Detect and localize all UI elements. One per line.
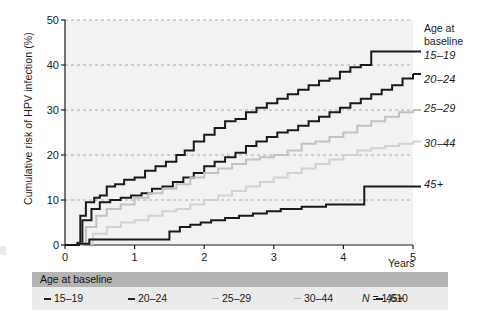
y-tick-label: 40 [33, 60, 59, 71]
y-tick-label: 10 [33, 195, 59, 206]
right-legend-header: Age at baseline [424, 22, 463, 47]
legend-item-25-29: 25–29 [212, 292, 251, 304]
x-tick-label: 4 [328, 252, 358, 263]
figure-container: 0 10 20 30 40 50 0 1 2 3 4 5 Cumulative … [0, 0, 482, 324]
y-tick-label: 50 [33, 15, 59, 26]
series-line-30–44 [65, 142, 413, 246]
series-paths [65, 52, 421, 246]
axis-ticks [61, 20, 413, 249]
x-tick-label: 0 [50, 252, 80, 263]
gridlines [65, 20, 413, 200]
legend-item-label: 15–19 [54, 292, 83, 304]
x-axis-title: Years [388, 257, 414, 269]
series-line-20–24 [65, 74, 413, 245]
bottom-legend-row: 15–19 20–24 25–29 30–44 45+ N = 1,610 [32, 287, 448, 310]
axis-lines [65, 20, 413, 245]
right-legend-header-line1: Age at [424, 22, 463, 35]
x-tick-label: 1 [120, 252, 150, 263]
legend-sample-size: N = 1,610 [362, 292, 408, 304]
bottom-legend: Age at baseline 15–19 20–24 25–29 30–44 … [32, 272, 448, 310]
x-tick-label: 2 [189, 252, 219, 263]
right-legend-header-line2: baseline [424, 35, 463, 48]
legend-item-label: 25–29 [222, 292, 251, 304]
legend-dash-icon [212, 298, 219, 299]
legend-n-value: = 1,610 [373, 292, 408, 304]
series-line-25–29 [65, 110, 413, 245]
y-axis-title: Cumulative risk of HPV infection (%) [22, 32, 34, 205]
legend-item-30-44: 30–44 [294, 292, 333, 304]
y-tick-label: 20 [33, 150, 59, 161]
x-tick-label: 3 [259, 252, 289, 263]
y-tick-label: 30 [33, 105, 59, 116]
legend-n-symbol: N [362, 292, 370, 304]
series-label-15-19: 15–19 [424, 49, 456, 61]
series-line-45+ [65, 187, 413, 246]
series-label-45-plus: 45+ [424, 178, 443, 190]
legend-item-20-24: 20–24 [128, 292, 167, 304]
legend-dash-icon [294, 298, 301, 299]
y-tick-label: 0 [33, 240, 59, 251]
legend-item-label: 20–24 [138, 292, 167, 304]
series-label-20-24: 20–24 [424, 73, 456, 85]
legend-item-15-19: 15–19 [44, 292, 83, 304]
series-label-30-44: 30–44 [424, 137, 456, 149]
series-label-25-29: 25–29 [424, 102, 456, 114]
legend-dash-icon [44, 298, 51, 300]
bottom-legend-header-band: Age at baseline [32, 272, 448, 287]
legend-item-label: 30–44 [304, 292, 333, 304]
bottom-legend-header-text: Age at baseline [40, 274, 112, 285]
legend-dash-icon [128, 298, 135, 300]
